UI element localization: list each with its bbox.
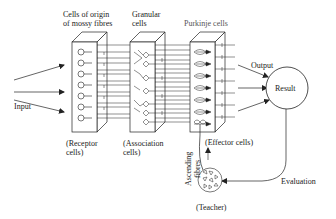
ascending-label-line2: fibres: [193, 152, 202, 186]
receptor-label-line1: (Receptor: [66, 139, 98, 148]
association-label: (Association cells): [123, 139, 163, 157]
association-label-line2: cells): [123, 148, 163, 157]
granular-header: Granular cells: [132, 10, 160, 28]
ascending-label-line1: Ascending: [184, 152, 193, 186]
granular-header-line1: Granular: [132, 10, 160, 19]
output-label: Output: [251, 61, 273, 70]
result-label: Result: [275, 84, 295, 93]
mossy-fibre-box: [72, 32, 107, 132]
cerebellum-model-diagram: [0, 0, 336, 219]
mossy-header-line2: of mossy fibres: [63, 19, 112, 28]
output-arrows: [238, 65, 269, 111]
granular-header-line2: cells: [132, 19, 160, 28]
effector-label: (Effector cells): [205, 138, 253, 147]
mossy-header: Cells of origin of mossy fibres: [63, 10, 112, 28]
ascending-fibres-label: Ascending fibres: [184, 152, 202, 186]
receptor-label-line2: cells): [66, 148, 98, 157]
teacher-label: (Teacher): [196, 203, 227, 212]
purkinje-header: Purkinje cells: [184, 19, 228, 28]
association-label-line1: (Association: [123, 139, 163, 148]
evaluation-label: Evaluation: [281, 177, 316, 186]
mossy-header-line1: Cells of origin: [63, 10, 112, 19]
receptor-label: (Receptor cells): [66, 139, 98, 157]
input-label: Input: [14, 102, 31, 111]
